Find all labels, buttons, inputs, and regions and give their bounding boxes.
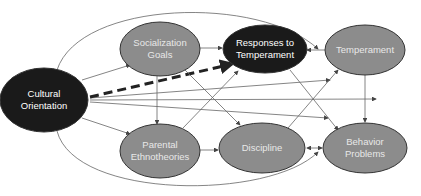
node-discipline — [219, 123, 305, 173]
edge-cultural-socialization — [82, 65, 130, 80]
edge-cultural-discipline — [90, 102, 328, 118]
node-parental-ethnotheories — [120, 124, 200, 178]
node-temperament — [325, 25, 405, 75]
node-behavior-problems — [323, 123, 407, 173]
diagram-canvas — [0, 0, 421, 196]
node-responses-to-temperament — [223, 25, 307, 73]
edge-responses-behavior — [290, 70, 338, 130]
path-model-diagram: Cultural Orientation Socialization Goals… — [0, 0, 421, 196]
edge-cultural-parental — [82, 118, 130, 134]
node-socialization-goals — [120, 22, 200, 76]
node-cultural-orientation — [0, 68, 88, 132]
edge-cultural-behavior-mid — [90, 99, 376, 100]
